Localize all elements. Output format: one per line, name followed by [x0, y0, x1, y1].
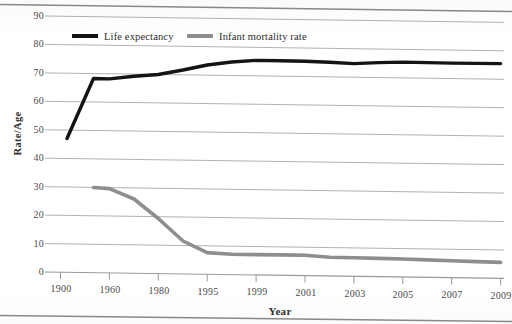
x-axis-ticks [61, 272, 501, 285]
xtick-label-1960: 1960 [87, 285, 133, 295]
ytick-label-80: 80 [20, 39, 44, 49]
gridline-20 [45, 215, 504, 221]
series-line-life-expectancy [67, 60, 501, 138]
gridline-60 [45, 101, 504, 107]
chart-plot-svg [0, 0, 512, 324]
xtick-label-1995: 1995 [185, 287, 231, 297]
page-rule-top [0, 5, 512, 12]
ytick-label-60: 60 [20, 96, 44, 106]
gridline-40 [45, 158, 504, 164]
x-axis-line [45, 272, 504, 278]
legend-item-infant-mortality-rate[interactable]: Infant mortality rate [187, 29, 307, 43]
xtick-label-1980: 1980 [136, 286, 182, 296]
legend-label-infant-mortality-rate: Infant mortality rate [219, 31, 307, 42]
series-line-infant-mortality-rate [94, 188, 501, 263]
xtick-label-2005: 2005 [380, 290, 426, 300]
gridline-50 [45, 130, 504, 136]
x-axis-title: Year [252, 305, 308, 317]
gridline-90 [45, 16, 504, 22]
chart-figure: 90 80 70 60 50 40 30 20 10 0 1900 1960 1… [0, 0, 512, 324]
xtick-label-2001: 2001 [283, 288, 329, 298]
gridline-80 [45, 44, 504, 50]
ytick-label-20: 20 [20, 210, 44, 220]
y-axis-title: Rate/Age [12, 104, 23, 164]
ytick-label-40: 40 [20, 153, 44, 163]
ytick-label-70: 70 [20, 68, 44, 78]
ytick-label-90: 90 [20, 11, 44, 21]
ytick-label-10: 10 [20, 239, 44, 249]
gridline-10 [45, 244, 504, 250]
legend-swatch-line-icon [187, 34, 213, 37]
legend-label-life-expectancy: Life expectancy [104, 31, 174, 42]
ytick-label-30: 30 [20, 182, 44, 192]
xtick-label-1999: 1999 [234, 287, 280, 297]
legend-item-life-expectancy[interactable]: Life expectancy [72, 29, 174, 43]
ytick-label-50: 50 [20, 125, 44, 135]
xtick-label-1900: 1900 [38, 284, 84, 294]
xtick-label-2009: 2009 [478, 291, 512, 301]
legend-swatch-line-icon [72, 34, 98, 37]
xtick-label-2007: 2007 [429, 290, 475, 300]
gridlines [45, 16, 504, 250]
ytick-label-0: 0 [20, 267, 44, 277]
xtick-label-2003: 2003 [332, 289, 378, 299]
